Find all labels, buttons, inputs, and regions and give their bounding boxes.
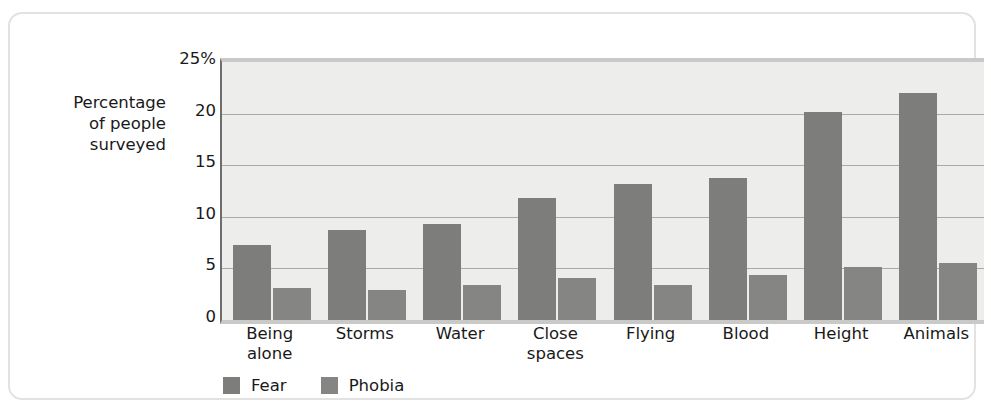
y-tick-label: 25%: [154, 49, 216, 68]
legend-item: Fear: [223, 376, 287, 395]
bar-group: [899, 62, 977, 320]
bar-phobia: [844, 267, 882, 320]
y-tick-label: 5: [154, 255, 216, 274]
plot-area: [220, 58, 984, 324]
bar-fear: [709, 178, 747, 320]
legend-label: Phobia: [349, 376, 405, 395]
bar-fear: [518, 198, 556, 320]
bar-fear: [614, 184, 652, 320]
bar-fear: [804, 112, 842, 320]
bar-phobia: [939, 263, 977, 320]
legend-swatch-icon: [223, 377, 240, 394]
bar-group: [423, 62, 501, 320]
legend-item: Phobia: [321, 376, 405, 395]
bar-group: [709, 62, 787, 320]
legend-swatch-icon: [321, 377, 338, 394]
y-axis-title: Percentage of people surveyed: [26, 92, 166, 155]
bar-phobia: [463, 285, 501, 320]
bar-group: [804, 62, 882, 320]
y-tick-label: 20: [154, 100, 216, 119]
legend-label: Fear: [251, 376, 287, 395]
x-tick-label: Animals: [871, 324, 991, 344]
bar-phobia: [558, 278, 596, 320]
chart-legend: FearPhobia: [223, 376, 404, 395]
y-tick-label: 15: [154, 152, 216, 171]
bar-fear: [899, 93, 937, 320]
bar-group: [233, 62, 311, 320]
bar-fear: [328, 230, 366, 320]
y-tick-label: 0: [154, 307, 216, 326]
figure-frame: Percentage of people surveyed 25%2015105…: [8, 12, 976, 400]
bar-group: [328, 62, 406, 320]
bar-phobia: [654, 285, 692, 320]
bar-phobia: [273, 288, 311, 320]
y-tick-label: 10: [154, 203, 216, 222]
bar-group: [614, 62, 692, 320]
x-axis-tick-labels: Being aloneStormsWaterClose spacesFlying…: [220, 324, 984, 372]
bar-fear: [423, 224, 461, 320]
bar-phobia: [368, 290, 406, 320]
bar-phobia: [749, 275, 787, 320]
plot-inner: [222, 62, 984, 320]
bar-fear: [233, 245, 271, 320]
bar-group: [518, 62, 596, 320]
y-axis-tick-labels: 25%20151050: [150, 58, 216, 316]
